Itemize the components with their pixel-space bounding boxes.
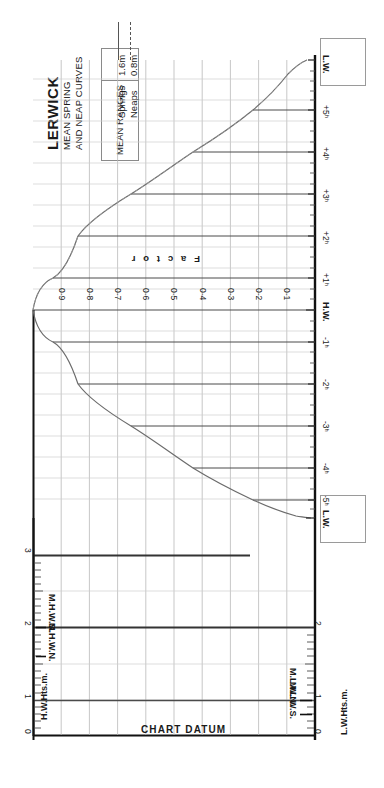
hw-height-tick-0: 0 [24, 729, 33, 734]
hourly-lines-lower [53, 342, 315, 500]
tidal-curve-page: LERWICK MEAN SPRING AND NEAP CURVES MEAN… [0, 0, 384, 788]
factor-tick-2: 0·7 [114, 288, 123, 300]
lw-label-box-top [320, 38, 366, 86]
hw-hts-axis-label: H.W.Hts.m. [40, 673, 49, 720]
height-panel-vgrid [61, 518, 287, 735]
spring-curve-lower [33, 310, 311, 518]
hw-height-tick-1: 1 [24, 694, 33, 699]
time-tick-minus1: -1ʰ [322, 337, 331, 348]
lw-hts-axis-label: L.W.Hts.m. [340, 689, 349, 735]
factor-tick-0: 0·9 [58, 288, 67, 300]
time-tick-plus1: +1ʰ [322, 273, 331, 286]
lw-height-tick-2: 2 [314, 621, 323, 626]
time-tick-hw: H.W. [321, 302, 330, 322]
time-tick-plus3: +3ʰ [322, 189, 331, 202]
neap-curve [33, 60, 307, 310]
time-tick-plus5: +5ʰ [322, 105, 331, 118]
lw-height-tick-0: 0 [314, 729, 323, 734]
hourly-lines-upper [53, 110, 315, 278]
chart-datum-label: CHART DATUM [141, 724, 226, 735]
factor-tick-1: 0·8 [86, 288, 95, 300]
time-tick-plus4: +4ʰ [322, 147, 331, 160]
factor-axis-label: F a c t o r [129, 254, 200, 265]
time-tick-plus2: +2ʰ [322, 231, 331, 244]
lw-height-tick-1: 1 [314, 694, 323, 699]
factor-tick-7: 0·2 [255, 288, 264, 300]
factor-tick-3: 0·6 [142, 288, 151, 300]
factor-tick-8: 0·1 [283, 288, 292, 300]
time-tick-minus3: -3ʰ [322, 421, 331, 432]
tidal-curve-plot [0, 0, 384, 788]
factor-tick-5: 0·4 [199, 288, 208, 300]
mlws-label: M.L.W.S. [288, 682, 297, 719]
time-tick-minus2: -2ʰ [322, 379, 331, 390]
lw-label-box-bottom [320, 495, 366, 543]
hw-height-tick-2: 2 [24, 621, 33, 626]
factor-tick-4: 0·5 [170, 288, 179, 300]
mhwn-label: M.H.W.N. [47, 623, 56, 662]
spring-curve [33, 60, 307, 310]
factor-tick-6: 0·3 [227, 288, 236, 300]
hw-height-tick-3: 3 [24, 548, 33, 553]
time-tick-minus4: -4ʰ [322, 463, 331, 474]
